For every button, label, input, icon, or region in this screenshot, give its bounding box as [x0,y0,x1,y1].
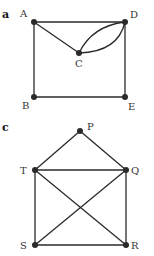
vertex-B [31,94,37,100]
edge-A-C [34,22,79,53]
part-label-a: a [2,8,9,21]
edge-P-Q [80,131,126,170]
vertex-label-A: A [19,8,28,19]
vertex-label-S: S [20,240,27,251]
vertex-label-T: T [20,165,27,176]
graph-figure: a A D C B E c P T Q S [0,0,154,256]
vertex-R [123,242,129,248]
vertex-label-P: P [87,121,94,132]
vertex-label-B: B [22,100,29,111]
vertex-D [122,19,128,25]
vertex-label-E: E [128,101,135,112]
vertex-S [32,242,38,248]
vertex-label-C: C [75,58,83,69]
vertex-label-D: D [130,9,138,20]
vertex-C [76,50,82,56]
vertex-A [31,19,37,25]
edge-P-T [35,131,80,170]
vertex-label-R: R [131,240,139,251]
vertex-P [77,128,83,134]
vertex-E [122,94,128,100]
edge-C-D-lower [79,22,125,53]
vertex-label-Q: Q [131,165,139,176]
graph-c: c P T Q S R [2,121,139,251]
graph-a: a A D C B E [2,8,138,112]
part-label-c: c [2,121,9,134]
vertex-T [32,167,38,173]
vertex-Q [123,167,129,173]
